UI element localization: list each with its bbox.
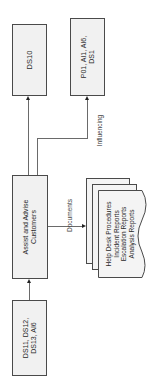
- p01-label: P01, AI1, AI6, DS1: [80, 36, 96, 78]
- influencing-label: Influencing: [96, 115, 103, 146]
- p01-label-line2: DS1: [88, 36, 96, 78]
- inputs-label-line2: DS13, AI6: [30, 318, 38, 358]
- documents-label: Documents: [66, 199, 73, 232]
- document-item: Help Desk Procedures: [105, 201, 113, 266]
- ds10-box: DS10: [12, 24, 47, 96]
- assist-label-line2: Customers: [30, 200, 38, 255]
- arrow-up-icon: [26, 96, 30, 100]
- connector-assist-p01-horizontal: [37, 138, 88, 139]
- document-item: Analysis Reports: [128, 201, 136, 266]
- connector-assist-p01-vertical-right: [87, 100, 88, 139]
- inputs-box: DS11, DS12, DS13, AI6: [12, 300, 47, 376]
- inputs-label: DS11, DS12, DS13, AI6: [22, 318, 38, 358]
- connector-assist-ds10: [28, 100, 29, 175]
- arrow-up-icon: [85, 96, 89, 100]
- assist-label-line1: Assist and Advise: [22, 200, 30, 255]
- connector-inputs-assist: [29, 283, 30, 300]
- connector-assist-p01-vertical-left: [37, 138, 38, 175]
- document-item: Incident Reports: [113, 201, 121, 266]
- document-list: Help Desk Procedures Incident Reports Es…: [105, 201, 135, 266]
- p01-box: P01, AI1, AI6, DS1: [70, 18, 105, 96]
- document-page-front: Help Desk Procedures Incident Reports Es…: [98, 190, 152, 278]
- assist-label: Assist and Advise Customers: [22, 200, 38, 255]
- p01-label-line1: P01, AI1, AI6,: [80, 36, 88, 78]
- arrow-up-icon: [27, 279, 31, 283]
- ds10-label: DS10: [26, 51, 34, 70]
- assist-box: Assist and Advise Customers: [12, 175, 48, 279]
- document-item: Escalation Reports: [120, 201, 128, 266]
- inputs-label-line1: DS11, DS12,: [22, 318, 30, 358]
